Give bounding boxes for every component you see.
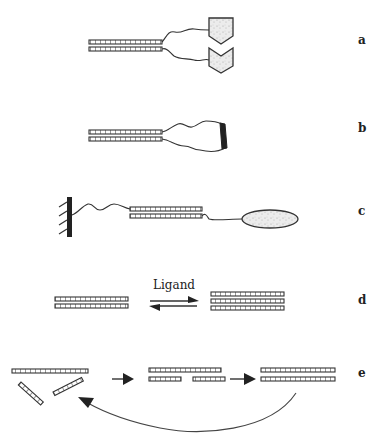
ligand-label: Ligand — [153, 278, 195, 292]
fragment-strand-2 — [53, 377, 83, 395]
template-strand — [12, 369, 88, 373]
panel-a: a — [89, 18, 366, 73]
strand-top — [89, 130, 162, 134]
strand-top — [89, 40, 162, 44]
ellipse-linker — [202, 214, 242, 220]
strand-top — [130, 207, 202, 211]
cycle-return-arrowhead — [78, 397, 94, 408]
loop-linker — [162, 121, 225, 151]
panel-c: c — [59, 197, 365, 237]
surface-wall — [67, 197, 72, 237]
panel-d: Ligand d — [55, 278, 367, 311]
strand-bottom — [89, 47, 162, 51]
ellipse-label-bead — [242, 210, 298, 228]
figure-canvas: a b c Ligand — [0, 0, 388, 447]
notched-shape-bottom — [209, 48, 233, 73]
triplex-strand-1 — [211, 292, 284, 296]
surface-hatch — [59, 202, 67, 234]
strand-bottom — [130, 214, 202, 218]
equilibrium-arrows — [149, 296, 199, 311]
panel-label-d: d — [358, 293, 367, 307]
panel-e: e — [12, 366, 366, 431]
nicked-duplex-fragment-1 — [149, 377, 181, 381]
reaction-arrow-2 — [230, 373, 256, 385]
cycle-return-arrow — [86, 393, 296, 431]
panel-b: b — [89, 121, 366, 151]
duplex-strand-bottom — [55, 304, 128, 308]
triplex-strand-2 — [211, 299, 284, 303]
linker-top — [162, 29, 209, 42]
linker-bottom — [162, 49, 209, 61]
duplex-strand-top — [55, 297, 128, 301]
strand-bottom — [89, 137, 162, 141]
panel-label-c: c — [358, 204, 365, 218]
ligated-duplex-top — [261, 368, 335, 372]
pentagon-shape-top — [209, 18, 233, 44]
panel-label-a: a — [358, 33, 366, 47]
cap-bar — [220, 123, 227, 149]
nicked-duplex-fragment-2 — [193, 377, 225, 381]
fragment-strand-1 — [18, 382, 43, 405]
triplex-strand-3 — [211, 306, 284, 310]
ligated-duplex-bottom — [261, 377, 335, 381]
panel-label-b: b — [358, 121, 366, 135]
nicked-duplex-top — [149, 368, 221, 372]
reaction-arrow-1 — [112, 373, 134, 385]
tether-linker — [72, 204, 130, 215]
panel-label-e: e — [358, 366, 366, 380]
